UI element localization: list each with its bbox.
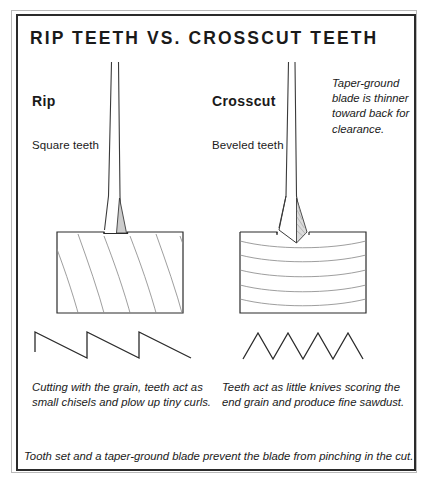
- crosscut-column-heading: Crosscut: [212, 93, 276, 109]
- rip-sub-label: Square teeth: [32, 139, 99, 151]
- footer-note: Tooth set and a taper-ground blade preve…: [24, 450, 416, 462]
- figure-root: RIP TEETH VS. CROSSCUT TEETH Rip Crosscu…: [0, 0, 428, 483]
- rip-caption: Cutting with the grain, teeth act as sma…: [32, 380, 212, 411]
- page-title: RIP TEETH VS. CROSSCUT TEETH: [30, 28, 402, 49]
- taper-ground-annotation: Taper-ground blade is thinner toward bac…: [332, 76, 424, 137]
- crosscut-sub-label: Beveled teeth: [212, 139, 284, 151]
- crosscut-caption: Teeth act as little knives scoring the e…: [222, 380, 408, 411]
- rip-column-heading: Rip: [32, 93, 56, 109]
